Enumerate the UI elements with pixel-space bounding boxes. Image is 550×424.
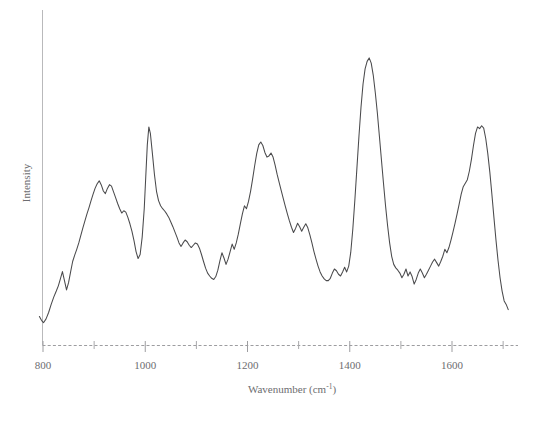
x-tick-label: 1200 <box>237 359 260 371</box>
spectrum-line <box>39 58 508 323</box>
spectrum-plot: 8001000120014001600 Wavenumber (cm-1) In… <box>0 0 550 424</box>
x-tick-label: 800 <box>35 359 52 371</box>
x-axis-title: Wavenumber (cm-1) <box>248 382 336 396</box>
x-tick-label: 1000 <box>134 359 157 371</box>
x-axis-ticks <box>43 341 503 352</box>
y-axis-title: Intensity <box>20 163 32 202</box>
raman-spectrum-chart: 8001000120014001600 Wavenumber (cm-1) In… <box>0 0 550 424</box>
x-tick-label: 1600 <box>441 359 464 371</box>
x-tick-label: 1400 <box>339 359 362 371</box>
x-axis-tick-labels: 8001000120014001600 <box>35 359 464 371</box>
